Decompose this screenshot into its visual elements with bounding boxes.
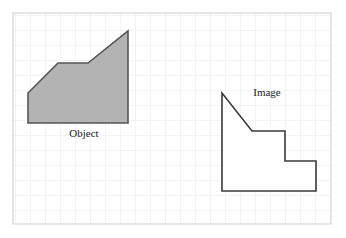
object-label: Object <box>69 127 98 139</box>
geometry-figure: Object Image <box>0 0 346 238</box>
image-label: Image <box>253 86 281 98</box>
